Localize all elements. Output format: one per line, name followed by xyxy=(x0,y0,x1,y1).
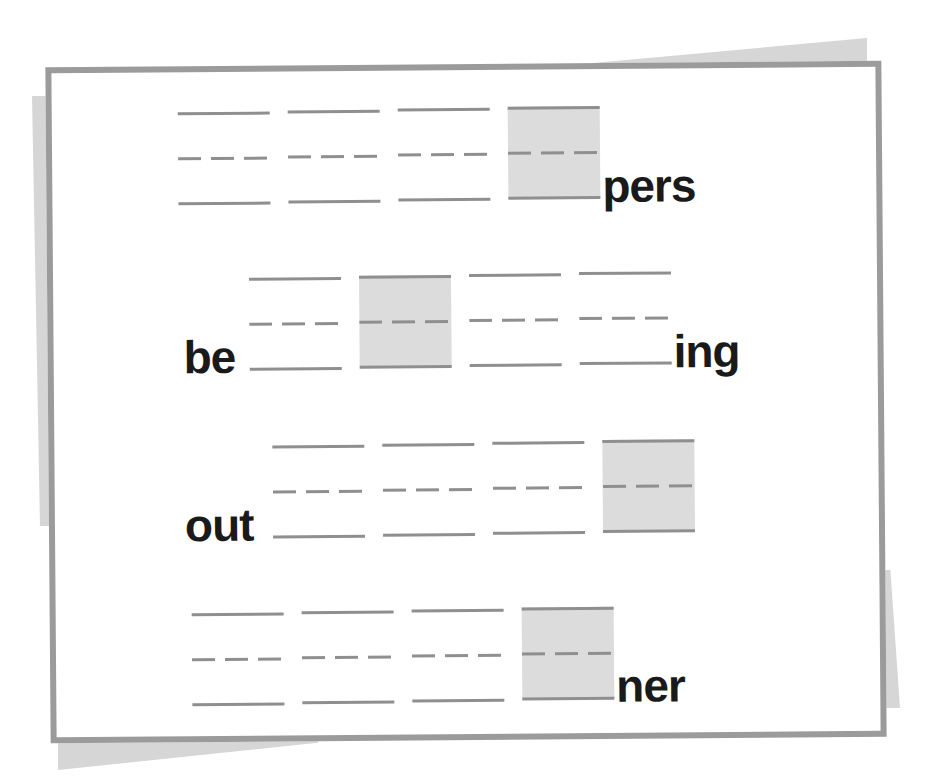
letter-slot-2-shaded[interactable] xyxy=(359,275,452,368)
guide-line-bottom xyxy=(288,200,380,204)
guide-line-bottom xyxy=(273,535,365,539)
guide-line-bottom xyxy=(398,198,490,202)
letter-slot-3[interactable] xyxy=(412,609,505,702)
guide-line-bottom xyxy=(302,701,394,705)
worksheet-frame: pers be xyxy=(45,61,886,744)
guide-line-bottom xyxy=(580,361,672,365)
guide-line-top xyxy=(302,611,394,615)
guide-line-mid xyxy=(302,656,394,660)
guide-line-mid xyxy=(603,484,695,488)
letter-slot-3[interactable] xyxy=(398,108,491,201)
guide-line-mid xyxy=(522,652,614,656)
worksheet-page: pers be xyxy=(0,0,944,779)
guide-line-top xyxy=(412,609,504,613)
guide-line-bottom xyxy=(192,702,284,706)
letter-slot-4[interactable] xyxy=(579,271,672,364)
letter-slot-3[interactable] xyxy=(492,441,585,534)
letter-slot-1[interactable] xyxy=(249,277,342,370)
guide-line-top xyxy=(398,108,490,112)
letter-slot-1[interactable] xyxy=(178,112,271,205)
word-prefix: out xyxy=(185,502,254,549)
guide-line-bottom xyxy=(522,697,614,701)
letter-slot-1[interactable] xyxy=(272,445,365,538)
guide-line-mid xyxy=(579,316,671,320)
letter-slot-4-shaded[interactable] xyxy=(602,439,695,532)
guide-line-top xyxy=(249,277,341,281)
guide-line-mid xyxy=(359,320,451,324)
letter-slot-4-shaded[interactable] xyxy=(508,106,601,199)
guide-line-mid xyxy=(249,322,341,326)
guide-line-top xyxy=(359,275,451,279)
guide-line-bottom xyxy=(603,529,695,533)
guide-line-mid xyxy=(383,488,475,492)
guide-line-mid xyxy=(508,151,600,155)
guide-line-bottom xyxy=(250,367,342,371)
guide-line-top xyxy=(192,612,284,616)
letter-slot-1[interactable] xyxy=(192,612,285,705)
letter-slot-3[interactable] xyxy=(469,273,562,366)
guide-line-top xyxy=(178,112,270,116)
guide-line-top xyxy=(522,607,614,611)
letter-slot-2[interactable] xyxy=(302,611,395,704)
word-prefix: be xyxy=(183,334,235,380)
letter-slot-4-shaded[interactable] xyxy=(522,607,615,700)
word-suffix: ner xyxy=(616,662,685,709)
letter-slot-2[interactable] xyxy=(288,110,381,203)
guide-line-mid xyxy=(493,486,585,490)
guide-line-bottom xyxy=(508,196,600,200)
guide-line-top xyxy=(508,106,600,110)
guide-line-mid xyxy=(288,155,380,159)
guide-line-top xyxy=(579,271,671,275)
guide-line-bottom xyxy=(493,531,585,535)
letter-slot-2[interactable] xyxy=(382,443,475,536)
guide-line-top xyxy=(602,439,694,443)
guide-line-top xyxy=(492,441,584,445)
back-card-edge-right xyxy=(884,570,900,708)
guide-line-bottom xyxy=(178,202,270,206)
guide-line-top xyxy=(382,443,474,447)
guide-line-top xyxy=(272,445,364,449)
guide-line-mid xyxy=(192,657,284,661)
guide-line-top xyxy=(469,273,561,277)
guide-line-bottom xyxy=(383,533,475,537)
guide-line-mid xyxy=(412,654,504,658)
word-suffix: ing xyxy=(673,328,739,375)
guide-line-mid xyxy=(398,153,490,157)
guide-line-mid xyxy=(178,157,270,161)
word-suffix: pers xyxy=(602,162,696,209)
guide-line-bottom xyxy=(412,699,504,703)
guide-line-bottom xyxy=(470,363,562,367)
guide-line-mid xyxy=(273,490,365,494)
guide-line-bottom xyxy=(360,365,452,369)
guide-line-mid xyxy=(469,318,561,322)
guide-line-top xyxy=(288,110,380,114)
